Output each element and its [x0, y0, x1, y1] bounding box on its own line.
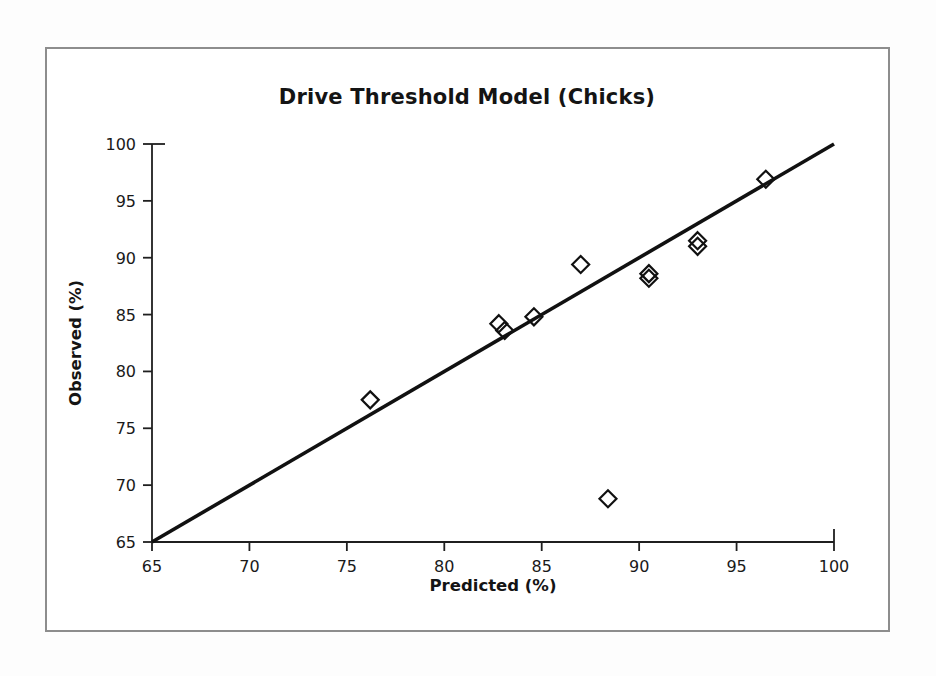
- x-tick-label: 65: [142, 557, 162, 576]
- data-point-marker: [599, 490, 616, 507]
- x-tick-label: 80: [434, 557, 454, 576]
- y-tick-label: 95: [116, 192, 136, 211]
- data-point-marker: [689, 232, 706, 249]
- figure-frame: Drive Threshold Model (Chicks) 657075808…: [45, 47, 890, 632]
- x-tick-label: 100: [819, 557, 850, 576]
- y-tick-label: 65: [116, 533, 136, 552]
- y-tick-label: 85: [116, 306, 136, 325]
- data-point-marker: [572, 256, 589, 273]
- data-markers: [362, 171, 775, 508]
- identity-reference-line: [152, 144, 834, 542]
- x-axis-ticks: 65707580859095100: [142, 542, 849, 576]
- x-tick-label: 90: [629, 557, 649, 576]
- x-tick-label: 85: [532, 557, 552, 576]
- x-tick-label: 95: [726, 557, 746, 576]
- data-point-marker: [362, 391, 379, 408]
- x-tick-label: 70: [239, 557, 259, 576]
- scatter-chart: Drive Threshold Model (Chicks) 657075808…: [47, 49, 888, 630]
- y-tick-label: 80: [116, 362, 136, 381]
- y-tick-label: 100: [105, 135, 136, 154]
- y-axis-title: Observed (%): [66, 280, 85, 406]
- x-axis-title: Predicted (%): [430, 576, 557, 595]
- y-tick-label: 70: [116, 476, 136, 495]
- y-tick-label: 90: [116, 249, 136, 268]
- chart-title: Drive Threshold Model (Chicks): [279, 85, 655, 109]
- x-tick-label: 75: [337, 557, 357, 576]
- reference-line: [152, 144, 834, 542]
- data-point-marker: [689, 238, 706, 255]
- y-tick-label: 75: [116, 419, 136, 438]
- page-canvas: Drive Threshold Model (Chicks) 657075808…: [0, 0, 936, 676]
- data-point-marker: [490, 315, 507, 332]
- y-axis-ticks: 65707580859095100: [105, 135, 152, 552]
